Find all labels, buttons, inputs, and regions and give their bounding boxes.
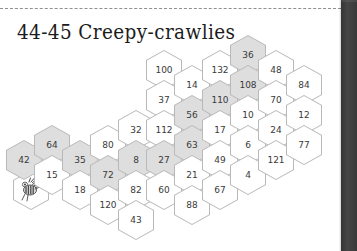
hex-label: 43: [130, 216, 141, 225]
hex-label: 84: [298, 81, 309, 90]
hex-label: 24: [270, 126, 281, 135]
hex-label: 4: [245, 171, 251, 180]
hex-label: 70: [270, 96, 281, 105]
hexagon-grid: 4264153518807212032882431003711227601456…: [0, 0, 357, 251]
hex-label: 32: [130, 126, 141, 135]
hex-label: 17: [214, 126, 225, 135]
hex-label: 49: [214, 156, 225, 165]
hex-label: 72: [102, 171, 113, 180]
hex-label: 80: [102, 141, 113, 150]
hex-label: 100: [155, 66, 172, 75]
hex-label: 10: [242, 111, 253, 120]
hex-label: 120: [99, 201, 116, 210]
hex-label: 67: [214, 186, 225, 195]
hex-label: 48: [270, 66, 281, 75]
hex-label: 63: [186, 141, 197, 150]
hex-label: 37: [158, 96, 169, 105]
hex-label: 21: [186, 171, 197, 180]
hex-label: 15: [46, 171, 57, 180]
hex-label: 27: [158, 156, 169, 165]
hex-label: 64: [46, 141, 57, 150]
hex-label: 82: [130, 186, 141, 195]
hex-label: 112: [155, 126, 172, 135]
hex-label: 14: [186, 81, 197, 90]
hex-label: 121: [267, 156, 284, 165]
hex-label: 88: [186, 201, 197, 210]
hex-label: 18: [74, 186, 85, 195]
hex-label: 12: [298, 111, 309, 120]
hex-label: 56: [186, 111, 197, 120]
worksheet-page: 44-45 Creepy-crawlies 426415351880721203…: [0, 0, 357, 251]
hex-label: 36: [242, 51, 253, 60]
hex-label: 35: [74, 156, 85, 165]
hex-label: 8: [133, 156, 139, 165]
hex-label: 77: [298, 141, 309, 150]
hex-label: 60: [158, 186, 169, 195]
hex-label: 132: [211, 66, 228, 75]
hex-label: 42: [18, 156, 29, 165]
page-gutter-strip: [341, 0, 357, 251]
hex-label: 6: [245, 141, 251, 150]
hex-label: 108: [239, 81, 256, 90]
hex-label: 110: [211, 96, 228, 105]
